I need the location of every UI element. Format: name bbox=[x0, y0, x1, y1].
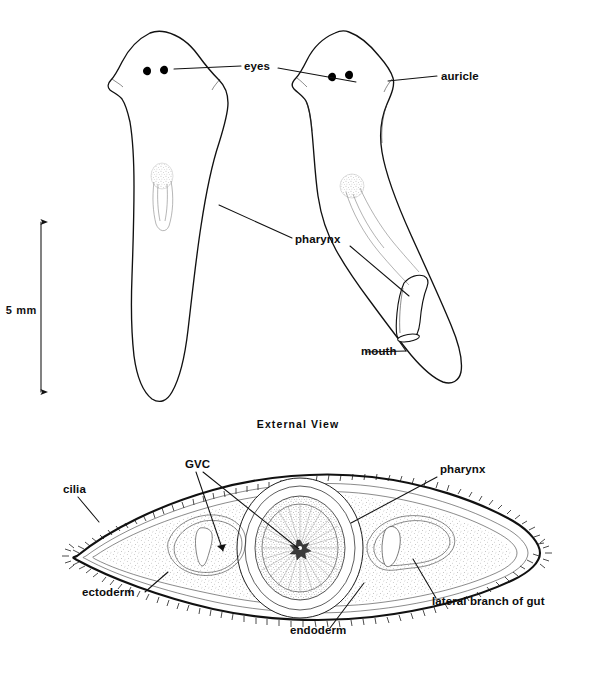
label-pharynx-external: pharynx bbox=[295, 233, 341, 245]
label-ectoderm: ectoderm bbox=[82, 586, 135, 598]
label-pharynx-section: pharynx bbox=[440, 463, 486, 475]
external-view-caption: External View bbox=[257, 418, 339, 430]
label-lateral-branch-of-gut: lateral branch of gut bbox=[432, 595, 545, 607]
label-auricle: auricle bbox=[441, 70, 479, 82]
label-gvc: GVC bbox=[185, 458, 210, 470]
label-eyes: eyes bbox=[244, 60, 270, 72]
label-cilia: cilia bbox=[63, 483, 86, 495]
pharynx-chamber bbox=[237, 478, 363, 618]
scale-bar-label: 5 mm bbox=[6, 304, 37, 316]
label-endoderm: endoderm bbox=[290, 624, 346, 636]
planarian-figure: 5 mm bbox=[0, 0, 596, 677]
figure-root: 5 mm bbox=[0, 0, 596, 677]
